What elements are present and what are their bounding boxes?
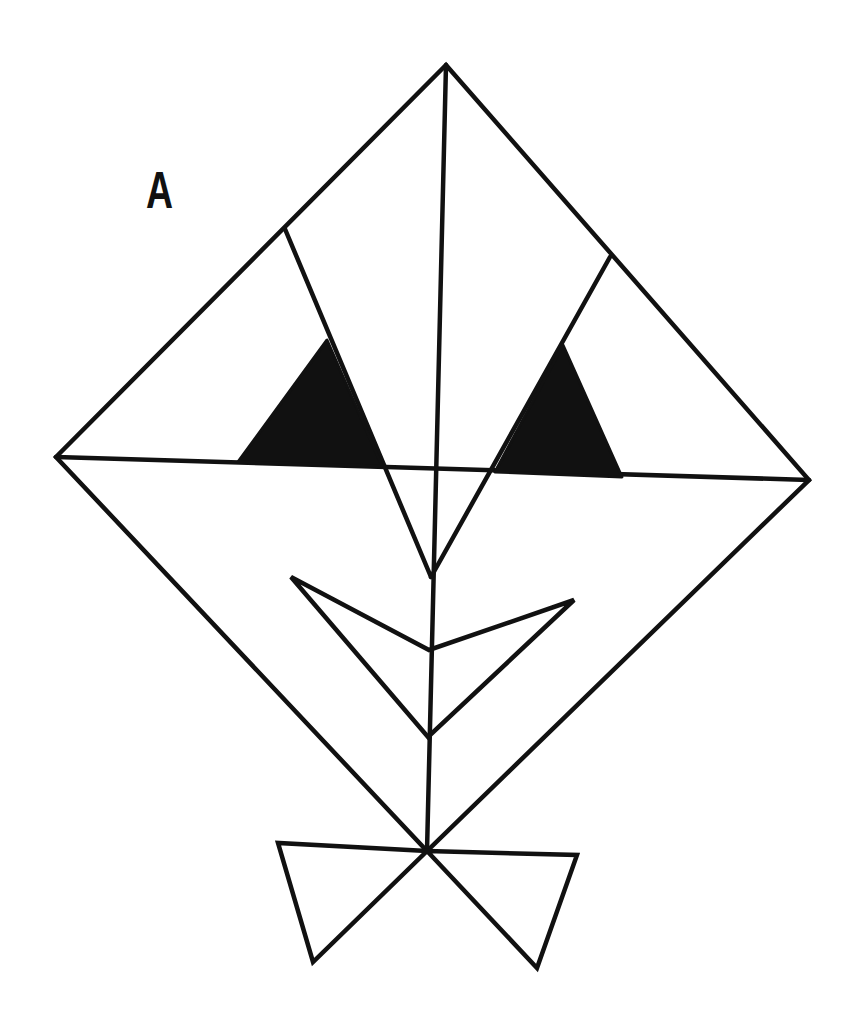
bow-tie-right	[427, 851, 577, 968]
figure-label: A	[146, 160, 173, 220]
bow-tie-left	[278, 843, 427, 962]
horizontal-crossbar	[56, 457, 809, 480]
kite-face-drawing	[0, 0, 854, 1025]
right-eye-shaded-triangle	[495, 345, 622, 477]
